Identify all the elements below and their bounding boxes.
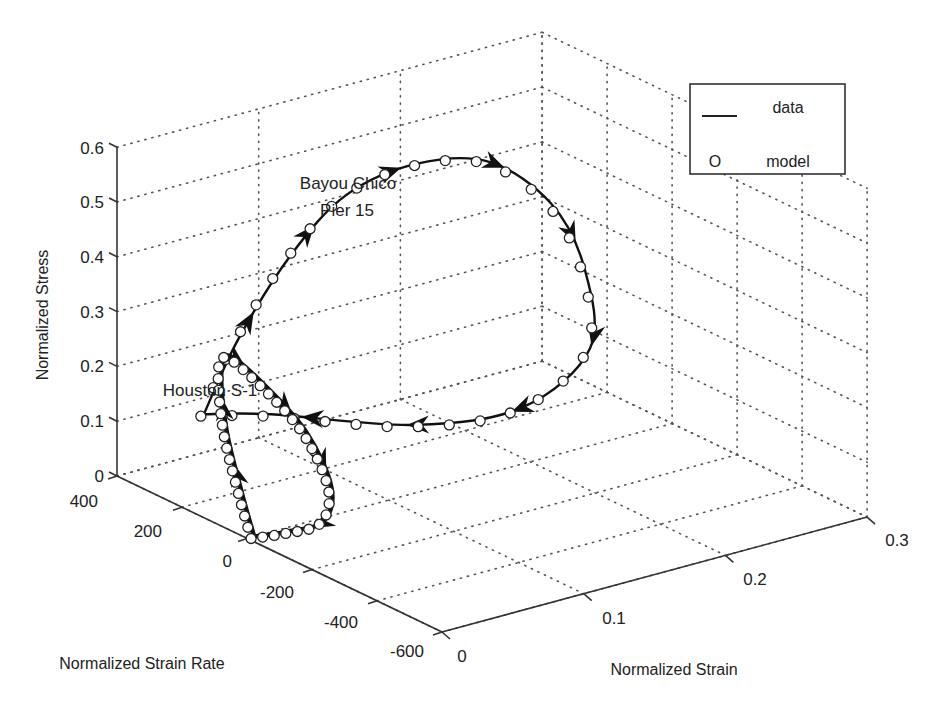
rate-tick-200: 200: [134, 522, 162, 541]
strain-tick-0.3: 0.3: [885, 531, 909, 550]
model-point: [233, 488, 243, 498]
rate-tick: [108, 476, 117, 479]
annotation-houston-s1: Houston S-1: [163, 381, 258, 400]
model-point: [263, 389, 273, 399]
strain-tick: [725, 555, 733, 562]
series-houston-s1: [213, 345, 336, 543]
strain-axis: [442, 517, 867, 632]
rate-tick-400: 400: [70, 492, 98, 511]
model-point: [351, 419, 361, 429]
model-point: [219, 432, 229, 442]
model-point: [222, 443, 232, 453]
model-point: [413, 422, 423, 432]
model-point: [280, 406, 290, 416]
strain-axis-title: Normalized Strain: [610, 661, 737, 678]
z-axis-title: Normalized Stress: [34, 250, 51, 381]
z-tick-0.6: 0.6: [80, 139, 104, 158]
model-point: [216, 409, 226, 419]
rate-tick-neg400: -400: [324, 613, 358, 632]
stress-tick: [109, 417, 117, 421]
model-point: [304, 524, 314, 534]
stress-tick: [109, 362, 117, 366]
model-point: [287, 415, 297, 425]
model-point: [217, 420, 227, 430]
model-point: [307, 444, 317, 454]
rate-tick: [368, 601, 377, 604]
grid-line: [117, 252, 542, 367]
stress-tick: [109, 198, 117, 202]
model-point: [564, 233, 574, 243]
model-point: [301, 434, 311, 444]
model-point: [229, 357, 239, 367]
model-point: [281, 528, 291, 538]
strain-tick: [442, 632, 450, 639]
model-point: [258, 532, 268, 542]
z-tick-0.1: 0.1: [80, 412, 104, 431]
z-tick-labels: 0 0.1 0.2 0.3 0.4 0.5 0.6: [80, 139, 104, 486]
model-point: [240, 511, 250, 521]
model-point: [243, 522, 253, 532]
grid-line: [117, 32, 542, 147]
model-point: [440, 156, 450, 166]
model-point: [236, 500, 246, 510]
model-point: [505, 408, 515, 418]
model-point: [258, 411, 268, 421]
model-point: [227, 466, 237, 476]
model-point: [196, 411, 206, 421]
model-point: [238, 365, 248, 375]
model-point: [548, 206, 558, 216]
model-point: [317, 465, 327, 475]
model-point: [305, 224, 315, 234]
legend-circle-symbol: O: [709, 153, 721, 170]
model-point: [324, 499, 334, 509]
model-point: [321, 476, 331, 486]
model-point: [251, 300, 261, 310]
legend: data O model: [690, 84, 845, 174]
model-point: [583, 292, 593, 302]
model-point: [587, 323, 597, 333]
z-tick-0: 0: [95, 467, 104, 486]
model-point: [471, 157, 481, 167]
z-tick-0.2: 0.2: [80, 357, 104, 376]
rate-tick-neg600: -600: [390, 642, 424, 661]
model-point: [533, 395, 543, 405]
model-point: [312, 454, 322, 464]
model-point: [286, 248, 296, 258]
strain-tick: [584, 594, 592, 601]
rate-tick-neg200: -200: [260, 583, 294, 602]
annotation-pier-15: Pier 15: [320, 201, 374, 220]
model-point: [320, 416, 330, 426]
model-point: [410, 161, 420, 171]
z-tick-0.3: 0.3: [80, 303, 104, 322]
grid-line: [182, 392, 607, 507]
model-point: [268, 274, 278, 284]
model-point: [230, 477, 240, 487]
chart-3d-plot: 0 0.1 0.2 0.3 0.4 0.5 0.6 400 200 0 -200…: [0, 0, 942, 714]
annotation-bayou-chico: Bayou Chico: [300, 174, 396, 193]
strain-tick-0: 0: [457, 647, 466, 666]
model-point: [246, 533, 256, 543]
legend-label-data: data: [772, 99, 803, 116]
model-point: [314, 519, 324, 529]
model-point: [292, 527, 302, 537]
rate-tick: [303, 570, 312, 573]
model-point: [269, 530, 279, 540]
model-point: [578, 352, 588, 362]
model-point: [382, 422, 392, 432]
rate-tick: [433, 632, 442, 635]
legend-label-model: model: [766, 153, 810, 170]
grid-line: [377, 486, 802, 601]
model-point: [526, 184, 536, 194]
strain-tick-labels: 0 0.1 0.2 0.3: [457, 531, 909, 666]
strain-rate-axis-title: Normalized Strain Rate: [59, 655, 225, 672]
strain-tick-0.1: 0.1: [602, 609, 626, 628]
strain-tick-0.2: 0.2: [743, 570, 767, 589]
model-point: [272, 397, 282, 407]
stress-tick: [109, 253, 117, 257]
model-point: [235, 327, 245, 337]
model-point: [558, 376, 568, 386]
model-point: [214, 362, 224, 372]
model-point: [444, 420, 454, 430]
rate-tick-0: 0: [223, 552, 232, 571]
grid-line: [117, 306, 542, 421]
